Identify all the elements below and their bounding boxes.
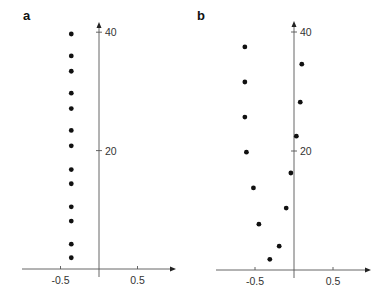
data-point xyxy=(277,244,282,249)
data-point xyxy=(69,106,74,111)
data-point xyxy=(242,115,247,120)
panel-a-plot: -0.50.52040 xyxy=(22,22,176,286)
data-point xyxy=(242,80,247,85)
data-point xyxy=(267,257,272,262)
data-point xyxy=(69,204,74,209)
x-tick-label: -0.5 xyxy=(246,275,264,287)
data-point xyxy=(244,150,249,155)
x-tick-label: 0.5 xyxy=(130,274,145,286)
data-point xyxy=(284,206,289,211)
x-axis-arrow-icon xyxy=(365,268,371,273)
data-point xyxy=(69,32,74,37)
data-point xyxy=(251,185,256,190)
data-point xyxy=(69,181,74,186)
y-tick-label: 20 xyxy=(300,145,312,157)
figure: -0.50.52040 -0.50.52040 xyxy=(0,0,383,299)
y-tick-label: 20 xyxy=(105,145,117,157)
data-point xyxy=(69,255,74,260)
y-axis-arrow-icon xyxy=(292,21,297,27)
data-point xyxy=(69,128,74,133)
data-point xyxy=(69,91,74,96)
data-point xyxy=(69,242,74,247)
y-tick-label: 40 xyxy=(105,26,117,38)
data-point xyxy=(298,100,303,105)
x-axis-arrow-icon xyxy=(170,267,176,272)
x-tick-label: 0.5 xyxy=(326,275,341,287)
data-point xyxy=(242,44,247,49)
data-point xyxy=(257,222,262,227)
data-point xyxy=(299,62,304,67)
data-point xyxy=(69,219,74,224)
data-point xyxy=(69,167,74,172)
data-point xyxy=(288,171,293,176)
x-tick-label: -0.5 xyxy=(51,274,69,286)
y-axis-arrow-icon xyxy=(97,22,102,28)
data-point xyxy=(69,143,74,148)
panel-b-plot: -0.50.52040 xyxy=(216,21,371,287)
y-tick-label: 40 xyxy=(300,26,312,38)
data-point xyxy=(69,53,74,58)
data-point xyxy=(294,134,299,139)
data-point xyxy=(69,69,74,74)
